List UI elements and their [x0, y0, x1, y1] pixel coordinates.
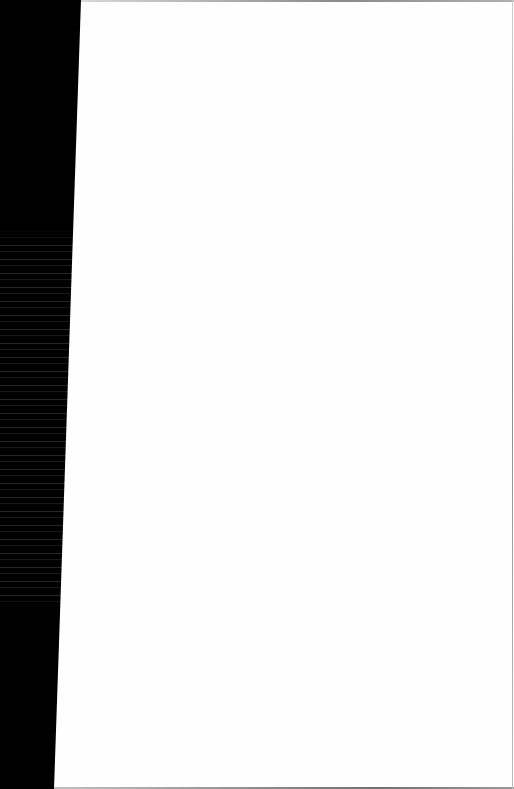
scan-scene: [0, 0, 514, 789]
paper-top-edge: [81, 0, 514, 2]
paper-right-edge: [512, 0, 513, 789]
